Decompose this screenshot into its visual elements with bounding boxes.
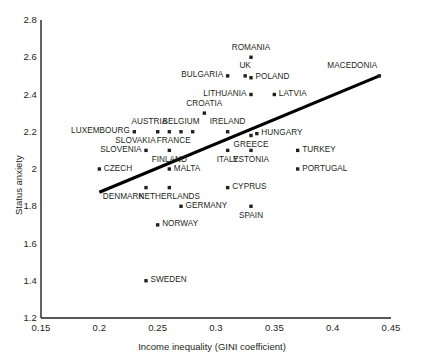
data-point-marker [255, 132, 258, 135]
data-point-label: IRELAND [153, 118, 303, 126]
x-tick-label: 0.25 [138, 322, 178, 333]
data-point-marker [168, 149, 171, 152]
data-point-label: ESTONIA [176, 156, 326, 164]
data-point-label: HUNGARY [261, 129, 411, 137]
data-point-marker [168, 130, 171, 133]
data-point-marker [203, 111, 206, 114]
data-point-label: CYPRUS [232, 183, 382, 191]
data-point-marker [226, 130, 229, 133]
y-axis-title: Status anxiety [13, 155, 24, 215]
data-point-label: NORWAY [162, 220, 312, 228]
data-point-marker [249, 93, 252, 96]
data-point-label: BULGARIA [73, 71, 223, 79]
data-point-marker [226, 74, 229, 77]
data-point-marker [144, 186, 147, 189]
data-point-marker [249, 134, 252, 137]
x-tick-label: 0.45 [371, 322, 411, 333]
data-point-marker [226, 186, 229, 189]
y-tick-label: 2.8 [5, 14, 37, 25]
y-tick-label: 1.6 [5, 238, 37, 249]
data-point-marker [249, 56, 252, 59]
data-point-label: CROATIA [129, 100, 279, 108]
plot-area [0, 0, 424, 364]
data-point-label: UK [170, 62, 320, 70]
data-point-marker [133, 130, 136, 133]
data-point-marker [243, 74, 246, 77]
data-point-marker [296, 149, 299, 152]
data-point-label: ROMANIA [176, 44, 326, 52]
y-tick-label: 2.6 [5, 51, 37, 62]
data-point-label: LITHUANIA [97, 90, 247, 98]
data-point-label: LUXEMBOURG [0, 127, 130, 135]
data-point-marker [179, 130, 182, 133]
y-tick-label: 1.4 [5, 275, 37, 286]
x-tick-label: 0.3 [196, 322, 236, 333]
x-tick-label: 0.4 [313, 322, 353, 333]
x-tick-label: 0.35 [254, 322, 294, 333]
data-point-marker [144, 149, 147, 152]
x-axis-title: Income inequality (GINI coefficient) [0, 341, 424, 352]
data-point-marker [191, 130, 194, 133]
data-point-marker [249, 76, 252, 79]
data-point-marker [98, 167, 101, 170]
x-tick-label: 0.15 [21, 322, 61, 333]
data-point-marker [226, 149, 229, 152]
data-point-marker [273, 93, 276, 96]
data-point-marker [156, 223, 159, 226]
data-point-marker [249, 149, 252, 152]
data-point-label: GERMANY [186, 202, 336, 210]
data-point-marker [179, 205, 182, 208]
data-point-marker [144, 279, 147, 282]
data-point-label: POLAND [256, 73, 406, 81]
data-point-label: SLOVENIA [0, 146, 142, 154]
data-point-label: LATVIA [279, 90, 424, 98]
scatter-chart: 1.21.41.61.822.22.42.62.80.150.20.250.30… [0, 0, 424, 364]
data-point-label: SWEDEN [151, 276, 301, 284]
data-point-marker [156, 130, 159, 133]
data-point-label: PORTUGAL [302, 165, 424, 173]
data-point-label: TURKEY [302, 146, 424, 154]
x-tick-label: 0.2 [79, 322, 119, 333]
data-point-marker [168, 186, 171, 189]
y-tick-label: 2.4 [5, 89, 37, 100]
data-point-label: SPAIN [176, 212, 326, 220]
